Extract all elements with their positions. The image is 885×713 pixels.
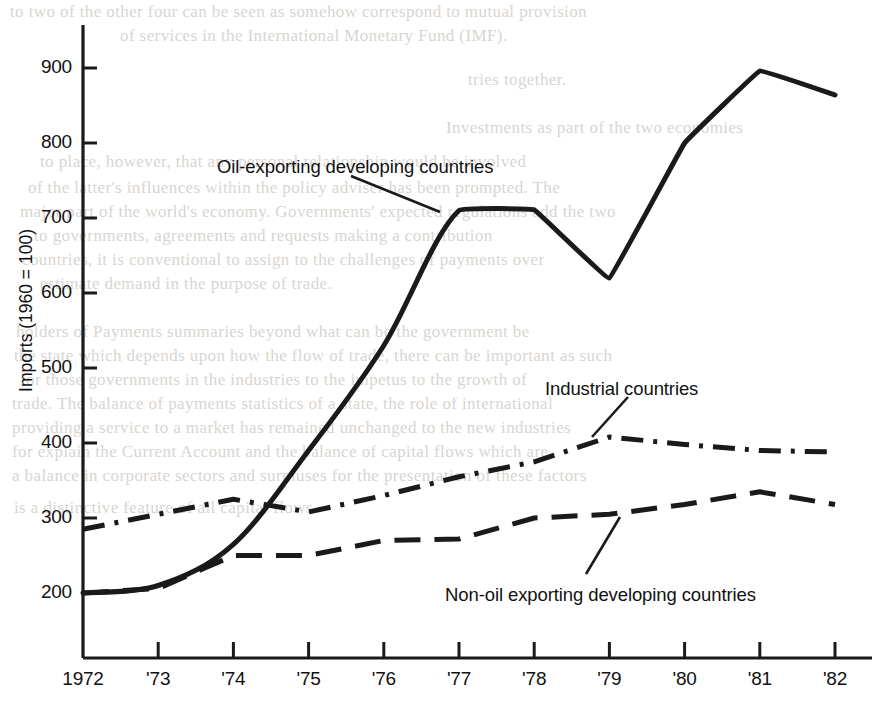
y-axis-tick-label: 300 — [10, 506, 72, 528]
series-line-solid — [83, 71, 835, 593]
x-axis-tick-label: '76 — [344, 668, 424, 690]
x-axis-tick-label: '79 — [569, 668, 649, 690]
x-axis-tick-label: '78 — [494, 668, 574, 690]
y-axis-title: Imports (1960 = 100) — [16, 211, 37, 411]
chart-plot-area — [0, 0, 885, 713]
x-axis-tick-label: '77 — [419, 668, 499, 690]
x-axis-tick-label: '74 — [193, 668, 273, 690]
annotation-leader-line — [586, 517, 620, 574]
data-series-lines — [83, 71, 835, 593]
annotation-leader-lines — [351, 176, 628, 574]
y-axis-tick-label: 500 — [10, 356, 72, 378]
y-axis-tick-label: 400 — [10, 431, 72, 453]
x-axis-tick-label: '75 — [269, 668, 349, 690]
annotation-leader-line — [351, 176, 440, 212]
import-index-line-chart: Imports (1960 = 100) 2003004005006007008… — [0, 0, 885, 713]
series-annotation-label: Non-oil exporting developing countries — [445, 584, 756, 606]
y-axis-tick-label: 600 — [10, 281, 72, 303]
x-axis-ticks — [158, 642, 835, 658]
x-axis-tick-label: '73 — [118, 668, 198, 690]
series-annotation-label: Oil-exporting developing countries — [217, 156, 493, 178]
series-line-dashed — [83, 492, 835, 593]
x-axis-tick-label: '81 — [720, 668, 800, 690]
x-axis-tick-label: '80 — [645, 668, 725, 690]
series-line-dash-dot — [83, 437, 835, 529]
series-annotation-label: Industrial countries — [545, 378, 698, 400]
annotation-leader-line — [592, 397, 628, 437]
y-axis-tick-label: 800 — [10, 131, 72, 153]
y-axis-tick-label: 900 — [10, 56, 72, 78]
x-axis-tick-label: '82 — [795, 668, 875, 690]
y-axis-tick-label: 700 — [10, 206, 72, 228]
x-axis-tick-label: 1972 — [43, 668, 123, 690]
y-axis-tick-label: 200 — [10, 581, 72, 603]
y-axis-ticks — [83, 68, 97, 593]
